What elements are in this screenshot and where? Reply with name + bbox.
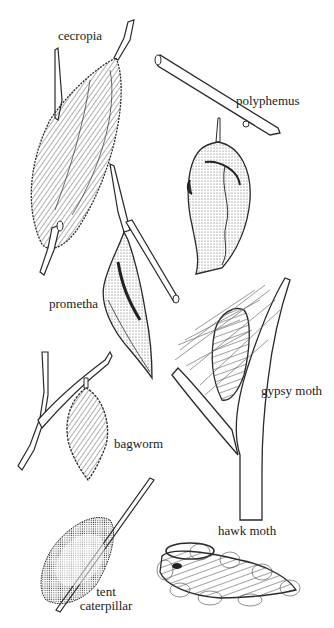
label-tent-caterpillar-line1: tent: [76, 585, 136, 599]
bagworm-illustration: [18, 352, 112, 480]
label-cecropia: cecropia: [58, 29, 102, 43]
label-hawk-moth: hawk moth: [218, 524, 276, 538]
label-tent-caterpillar: tent caterpillar: [76, 585, 136, 613]
hawk-moth-illustration: [157, 543, 300, 606]
gypsy-moth-illustration: [172, 278, 290, 520]
cecropia-illustration: [31, 20, 134, 275]
label-gypsy-moth: gypsy moth: [261, 384, 322, 398]
label-prometha: prometha: [49, 297, 98, 311]
cocoon-diagram: cecropia polyphemus prometha gypsy moth …: [0, 0, 334, 628]
label-tent-caterpillar-line2: caterpillar: [76, 599, 136, 613]
label-polyphemus: polyphemus: [236, 94, 300, 108]
prometha-illustration: [103, 164, 179, 378]
label-bagworm: bagworm: [114, 437, 163, 451]
polyphemus-illustration: [155, 55, 280, 274]
